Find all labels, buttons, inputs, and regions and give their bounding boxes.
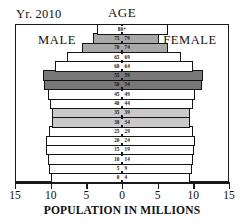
x-axis-tick bbox=[158, 182, 159, 189]
x-axis-tick-label: 0 bbox=[119, 189, 125, 201]
age-group-label: 2024 bbox=[113, 137, 131, 143]
age-group-label: 2529 bbox=[113, 128, 131, 134]
age-group-label: 4549 bbox=[113, 91, 131, 97]
age-group-label: 5559 bbox=[113, 72, 131, 78]
age-group-label: 1519 bbox=[113, 146, 131, 152]
x-axis-tick bbox=[86, 182, 87, 189]
pyramid-bar-row bbox=[97, 24, 168, 35]
x-axis-tick-label: 10 bbox=[188, 189, 200, 201]
x-axis-tick bbox=[122, 182, 123, 189]
x-axis-tick bbox=[51, 182, 52, 189]
x-axis-tick-label: 5 bbox=[83, 189, 89, 201]
x-axis-tick-label: 15 bbox=[223, 189, 235, 201]
age-group-label: 7579 bbox=[113, 35, 131, 41]
male-side-label: MALE bbox=[38, 33, 76, 48]
female-side-label: FEMALE bbox=[163, 33, 217, 48]
age-group-label: 6064 bbox=[113, 63, 131, 69]
x-axis-tick bbox=[15, 182, 16, 189]
x-axis-tick-label: 10 bbox=[45, 189, 57, 201]
age-group-label: 6569 bbox=[113, 54, 131, 60]
age-axis-title: AGE bbox=[108, 5, 136, 21]
age-group-label: 04 bbox=[116, 174, 128, 180]
age-group-label: 80+ bbox=[117, 26, 127, 32]
age-group-label: 3539 bbox=[113, 109, 131, 115]
age-group-label: 3034 bbox=[113, 119, 131, 125]
x-axis-title: POPULATION IN MILLIONS bbox=[44, 204, 200, 216]
x-axis-tick bbox=[229, 182, 230, 189]
year-label: Yr. 2010 bbox=[16, 7, 61, 22]
age-group-label: 7074 bbox=[113, 44, 131, 50]
x-axis-tick-label: 5 bbox=[155, 189, 161, 201]
age-group-label: 1014 bbox=[113, 156, 131, 162]
x-axis-tick bbox=[193, 182, 194, 189]
age-group-label: 5054 bbox=[113, 81, 131, 87]
x-axis-tick-label: 15 bbox=[9, 189, 21, 201]
age-group-label: 4044 bbox=[113, 100, 131, 106]
population-pyramid-figure: Yr. 2010 AGE MALE FEMALE 15105051015 POP… bbox=[0, 0, 244, 224]
age-group-label: 59 bbox=[116, 165, 128, 171]
